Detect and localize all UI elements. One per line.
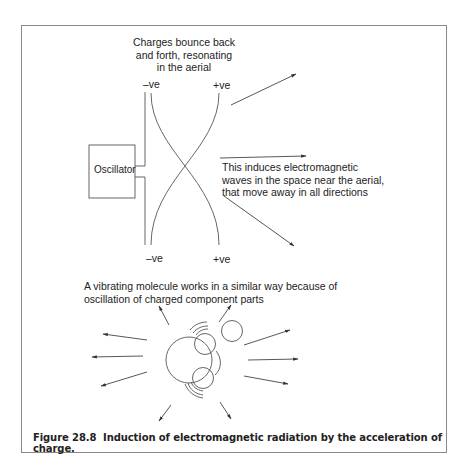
label-bottom-negative: –ve <box>146 252 163 265</box>
aerial-curve-1 <box>151 93 219 245</box>
annotation-line: waves in the space near the aerial, <box>222 174 384 187</box>
annotation-line: in the aerial <box>130 61 238 74</box>
annotation-line: A vibrating molecule works in a similar … <box>84 280 337 293</box>
label-top-positive: +ve <box>213 79 230 92</box>
annotation-line: Charges bounce back <box>130 36 238 49</box>
annotation-line: and forth, resonating <box>130 49 238 62</box>
caption-number: Figure 28.8 <box>33 432 96 443</box>
molecule-annotation: A vibrating molecule works in a similar … <box>84 280 337 305</box>
feed-line-top <box>135 92 145 166</box>
label-bottom-positive: +ve <box>213 253 230 266</box>
oscillator-label: Oscillator <box>94 164 136 177</box>
wave-arrow-right <box>220 156 306 158</box>
aerial-curve-2 <box>151 93 219 245</box>
top-annotation: Charges bounce back and forth, resonatin… <box>130 36 238 74</box>
wave-arrow-up <box>231 74 296 105</box>
feed-line-bottom <box>135 177 145 245</box>
label-top-negative: –ve <box>143 78 160 91</box>
annotation-line: that move away in all directions <box>222 186 384 199</box>
figure-caption: Figure 28.8 Induction of electromagnetic… <box>33 432 466 454</box>
wave-arrow-down <box>224 196 294 246</box>
wave-annotation: This induces electromagnetic waves in th… <box>222 161 384 199</box>
annotation-line: This induces electromagnetic <box>222 161 384 174</box>
annotation-line: oscillation of charged component parts <box>84 293 337 306</box>
molecule <box>166 321 243 399</box>
